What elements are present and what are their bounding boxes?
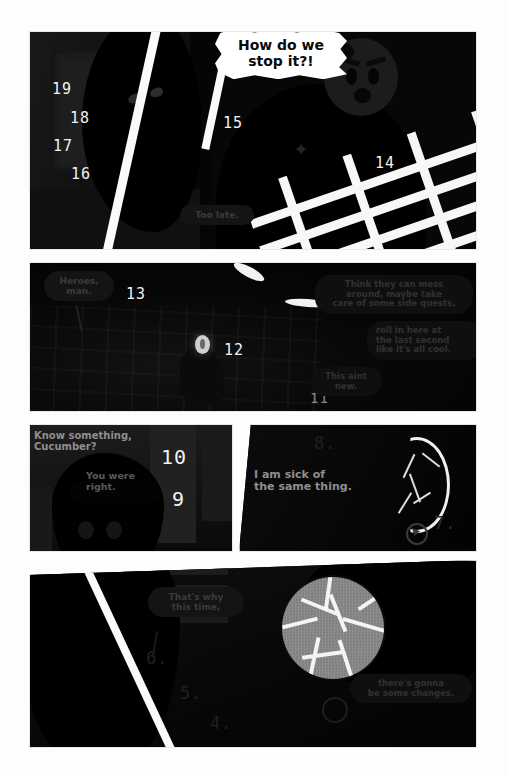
panel-4-moon: I am sick of the same thing. 8. 7. (239, 424, 477, 552)
star-icon: ✦ (292, 140, 310, 158)
sphere-crack (282, 617, 318, 630)
countdown-9: 9 (172, 487, 185, 511)
sphere-crack (342, 617, 384, 633)
glowing-orb (195, 335, 210, 354)
countdown-19: 19 (52, 80, 72, 98)
speech-balloon-know-something-cucumber: Know something, Cucumber? (34, 430, 154, 452)
mouth (354, 88, 371, 103)
countdown-6: 6. (146, 648, 168, 668)
ear-silhouette-right (104, 560, 140, 561)
moon-crack (398, 492, 412, 513)
eye-right (368, 68, 379, 85)
mustache-left (78, 521, 94, 539)
speech-balloon-think-they-can-mess-around: Think they can mess around, maybe take c… (315, 275, 473, 314)
comic-page: ✦ 19 18 17 16 15 14 How do we stop it?! … (0, 0, 508, 776)
countdown-5: 5. (180, 683, 202, 703)
countdown-10: 10 (161, 445, 187, 469)
sphere-crack (338, 639, 355, 679)
panel-3-interior: Know something, Cucumber? You were right… (29, 424, 233, 552)
countdown-15: 15 (223, 114, 243, 132)
countdown-7: 7. (434, 513, 456, 533)
cracked-sphere (282, 577, 384, 679)
speech-balloon-you-were-right: You were right. (86, 471, 158, 492)
panel-5-sphere: That's why this time, there's gonna be s… (29, 560, 477, 748)
brow-right (366, 56, 387, 66)
sphere-crack (302, 650, 342, 660)
balloon-text-before: I (254, 468, 262, 481)
countdown-13: 13 (126, 285, 146, 303)
background-shelf-right (202, 425, 233, 521)
panel-1-hallway: ✦ 19 18 17 16 15 14 How do we stop it?! … (29, 31, 477, 250)
countdown-12: 12 (224, 341, 244, 359)
background-shelf-left (30, 487, 52, 552)
speech-balloon-how-do-we-stop-it: How do we stop it?! (215, 31, 347, 79)
ear-silhouette-left (52, 560, 88, 565)
speech-balloon-too-late: Too late. (180, 205, 254, 225)
countdown-16: 16 (71, 165, 91, 183)
speech-balloon-i-am-sick-of-the-same-thing: I am sick of the same thing. (254, 469, 384, 494)
emblem-icon (406, 523, 428, 545)
countdown-4: 4. (210, 713, 232, 733)
emblem-icon-2 (322, 697, 348, 723)
countdown-17: 17 (53, 137, 73, 155)
countdown-14: 14 (375, 154, 395, 172)
mustache-right (106, 521, 122, 539)
speech-balloon-heroes-man: Heroes, man. (44, 271, 114, 301)
speech-balloon-thats-why-this-time: That's why this time, (148, 587, 244, 617)
countdown-8: 8. (314, 433, 336, 453)
speech-balloon-theres-gonna-be-some-changes: there's gonna be some changes. (350, 674, 472, 703)
panel-2-ruins: 13 12 11 Heroes, man. Think they can mes… (29, 262, 477, 412)
countdown-18: 18 (70, 109, 90, 127)
ruins-texture (30, 306, 320, 411)
speech-balloon-roll-in-here: roll in here at the last second like it'… (367, 321, 477, 360)
speech-balloon-this-aint-new: This aint new. (310, 367, 382, 396)
balloon-text-emphasis: am (262, 468, 281, 481)
eye-left (346, 68, 357, 85)
